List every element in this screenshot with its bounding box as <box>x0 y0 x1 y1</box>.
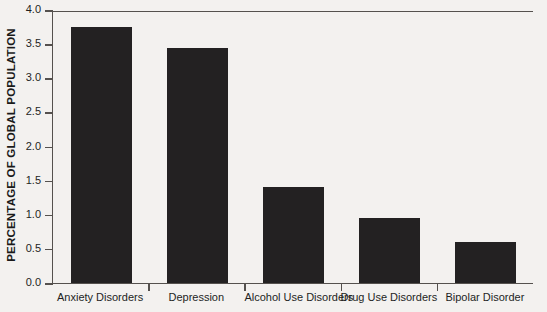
y-axis-tick-label: 1.5 <box>0 174 41 186</box>
x-axis-category-label: Anxiety Disorders <box>52 291 148 303</box>
x-axis-category-label: Bipolar Disorder <box>437 291 533 303</box>
y-axis-tick-label: 0.5 <box>0 242 41 254</box>
bar <box>71 27 132 283</box>
y-axis-tick-label: 2.5 <box>0 105 41 117</box>
bar <box>359 218 420 283</box>
y-axis-tick-label: 3.5 <box>0 37 41 49</box>
x-axis-category-label: Drug Use Disorders <box>341 291 437 303</box>
y-axis-tick-label: 3.0 <box>0 71 41 83</box>
bar-chart: PERCENTAGE OF GLOBAL POPULATION 0.00.51.… <box>0 0 547 312</box>
x-axis-category-label: Alcohol Use Disorders <box>244 291 340 303</box>
plot-area <box>52 11 533 284</box>
bar <box>263 187 324 283</box>
x-axis-tick-mark <box>341 284 343 291</box>
x-axis-tick-mark <box>437 284 439 291</box>
bar <box>455 242 516 283</box>
x-axis-category-label: Depression <box>148 291 244 303</box>
y-axis-tick-label: 0.0 <box>0 276 41 288</box>
y-axis-tick-label: 2.0 <box>0 140 41 152</box>
y-axis-tick-label: 4.0 <box>0 3 41 15</box>
x-axis-tick-mark <box>244 284 246 291</box>
x-axis-tick-mark <box>148 284 150 291</box>
bar <box>167 48 228 283</box>
y-axis-tick-label: 1.0 <box>0 208 41 220</box>
